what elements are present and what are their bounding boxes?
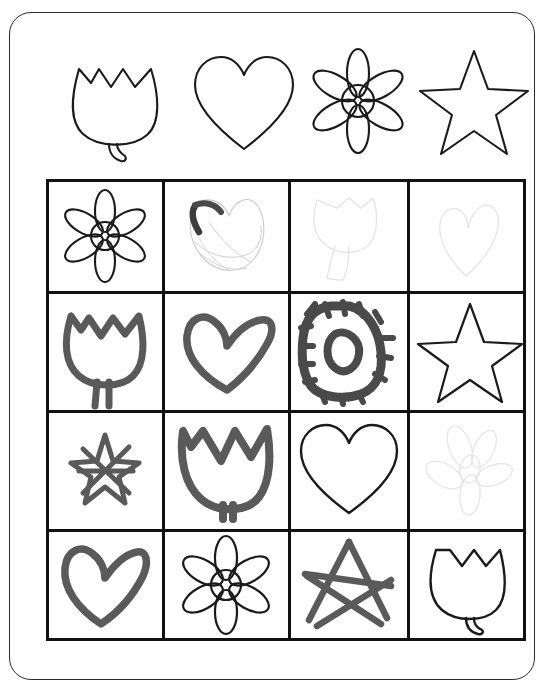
grid-cell-r4c1[interactable] [49,532,162,638]
worksheet-canvas [0,0,559,695]
legend-shape-heart [185,41,303,163]
grid-cell-r2c1[interactable] [49,294,162,410]
grid-cell-r1c4[interactable] [410,182,529,291]
grid-cell-r3c1[interactable] [49,413,162,529]
legend-shape-flower [299,41,417,163]
grid-cell-r2c2[interactable] [165,294,288,410]
grid-cell-r3c2[interactable] [165,413,288,529]
grid-cell-r3c3[interactable] [291,413,407,529]
grid-cell-r1c2[interactable] [165,182,288,291]
drawing-grid [46,179,526,641]
grid-cell-r3c4[interactable] [410,413,529,529]
grid-cell-r1c3[interactable] [291,182,407,291]
grid-cell-r4c2[interactable] [165,532,288,638]
grid-cell-r4c4[interactable] [410,532,529,638]
grid-cell-r2c3[interactable] [291,294,407,410]
reference-shapes-row [37,41,545,163]
legend-shape-tulip [59,41,177,163]
worksheet-card [9,12,535,680]
legend-shape-star [415,41,533,163]
grid-cell-r4c3[interactable] [291,532,407,638]
grid-cell-r1c1[interactable] [49,182,162,291]
grid-cell-r2c4[interactable] [410,294,529,410]
